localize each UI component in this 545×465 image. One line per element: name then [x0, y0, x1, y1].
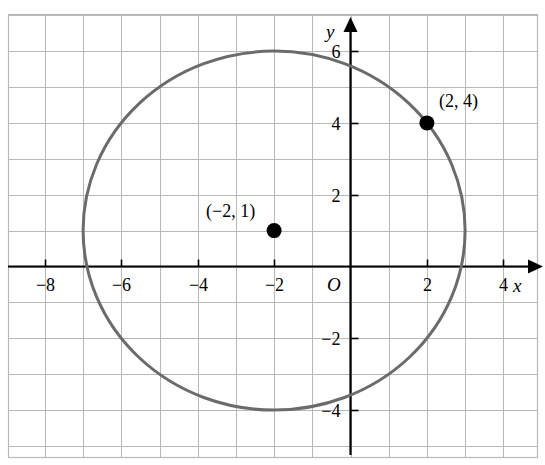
graph-canvas: −8−6−4−224−4−2246 (−2, 1)(2, 4) x y O: [0, 0, 545, 465]
y-axis-tick-label: 4: [332, 114, 341, 134]
x-axis-tick-label: 4: [499, 275, 508, 295]
coordinate-plane-figure: −8−6−4−224−4−2246 (−2, 1)(2, 4) x y O: [0, 0, 545, 465]
x-axis-label: x: [512, 275, 522, 296]
x-axis-tick-label: −4: [189, 275, 208, 295]
center-point-label: (−2, 1): [206, 201, 255, 222]
x-axis-tick-label: 2: [423, 275, 432, 295]
origin-label: O: [327, 274, 341, 295]
y-axis-tick-label: −2: [321, 329, 340, 349]
x-axis-tick-label: −8: [36, 275, 55, 295]
center-point: [267, 223, 282, 238]
x-axis-tick-label: −6: [112, 275, 131, 295]
on-circle-point-label: (2, 4): [439, 91, 478, 112]
y-axis-label: y: [324, 21, 335, 42]
x-axis-tick-label: −2: [265, 275, 284, 295]
on-circle-point: [419, 115, 434, 130]
y-axis-tick-label: 2: [332, 186, 341, 206]
